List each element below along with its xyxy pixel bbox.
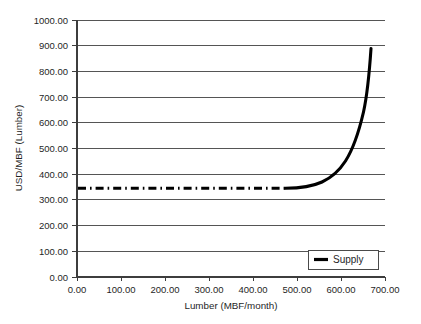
y-tick-label: 100.00	[39, 246, 68, 257]
y-tick-label: 200.00	[39, 220, 68, 231]
y-tick-label: 1000.00	[34, 15, 68, 26]
y-axis-title: USD/MBF (Lumber)	[13, 105, 24, 192]
y-tick-marks	[72, 20, 77, 277]
x-tick-labels: 0.00 100.00 200.00 300.00 400.00 500.00 …	[68, 284, 400, 295]
y-tick-labels: 1000.00 900.00 800.00 700.00 600.00 500.…	[34, 15, 68, 283]
x-tick-label: 500.00	[282, 284, 311, 295]
x-tick-label: 200.00	[150, 284, 179, 295]
x-tick-label: 600.00	[326, 284, 355, 295]
y-tick-label: 600.00	[39, 117, 68, 128]
y-tick-label: 400.00	[39, 169, 68, 180]
x-tick-label: 0.00	[68, 284, 87, 295]
x-tick-label: 100.00	[106, 284, 135, 295]
chart-legend[interactable]: Supply	[308, 250, 378, 269]
y-tick-label: 700.00	[39, 92, 68, 103]
y-tick-label: 500.00	[39, 143, 68, 154]
y-tick-label: 0.00	[50, 272, 69, 283]
legend-label-supply: Supply	[333, 254, 364, 265]
x-tick-label: 400.00	[238, 284, 267, 295]
chart-canvas: 1000.00 900.00 800.00 700.00 600.00 500.…	[0, 0, 421, 324]
supply-curve-chart: 1000.00 900.00 800.00 700.00 600.00 500.…	[0, 0, 421, 324]
x-axis-title: Lumber (MBF/month)	[184, 300, 277, 311]
x-tick-label: 300.00	[194, 284, 223, 295]
x-tick-label: 700.00	[370, 284, 399, 295]
y-tick-label: 900.00	[39, 40, 68, 51]
y-tick-label: 300.00	[39, 194, 68, 205]
y-tick-label: 800.00	[39, 66, 68, 77]
